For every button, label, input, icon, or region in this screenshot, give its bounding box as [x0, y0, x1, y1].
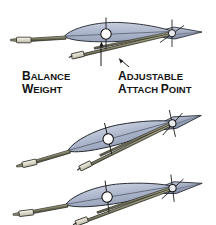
callout-balance-weight: BALANCE WEIGHT	[22, 69, 70, 96]
balance-weight-rest1: ALANCE	[31, 71, 71, 82]
attach-point-cap3: P	[161, 82, 169, 96]
hang-glider-balance-diagram: BALANCE WEIGHT ADJUSTABLE ATTACH POINT	[0, 0, 216, 225]
attach-point-rest2: TTACH	[127, 84, 161, 95]
figure-canvas: BALANCE WEIGHT ADJUSTABLE ATTACH POINT	[0, 0, 216, 225]
svg-text:WEIGHT: WEIGHT	[22, 82, 63, 96]
callout-adjustable-attach-point: ADJUSTABLE ATTACH POINT	[118, 69, 192, 96]
glider-view-nose-up	[10, 169, 205, 225]
callout-leader-attach-point	[119, 58, 129, 67]
svg-text:ADJUSTABLE: ADJUSTABLE	[118, 69, 183, 83]
glider-view-nose-down	[11, 101, 207, 185]
glider-view-level	[11, 18, 203, 60]
attach-point-rest3: OINT	[169, 84, 192, 95]
callout-leader-balance-weight	[99, 42, 103, 67]
balance-weight-rest2: EIGHT	[33, 84, 62, 95]
svg-text:BALANCE: BALANCE	[22, 69, 70, 83]
balance-weight-cap1: B	[22, 69, 31, 83]
attach-point-rest1: DJUSTABLE	[127, 71, 183, 82]
svg-text:ATTACH POINT: ATTACH POINT	[118, 82, 192, 96]
attach-point-cap2: A	[118, 82, 127, 96]
attach-point-cap1: A	[118, 69, 127, 83]
balance-weight-cap2: W	[22, 82, 34, 96]
